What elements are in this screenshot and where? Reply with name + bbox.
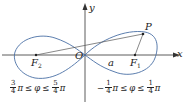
point-f1: [134, 54, 136, 56]
focus-f2-label: F2: [31, 58, 42, 69]
point-f2: [35, 54, 37, 56]
segment-a-label: a: [108, 58, 114, 68]
x-axis-label: x: [177, 49, 183, 59]
y-axis-label: y: [89, 3, 95, 13]
left-lobe-range: 34 π ≤ φ ≤ 54 π: [9, 80, 65, 95]
point-p-label: P: [145, 22, 152, 32]
origin-label: O: [75, 51, 83, 61]
segment-f1-p: [135, 34, 143, 55]
y-axis-arrow-icon: [83, 3, 88, 10]
right-lobe-range: − 14 π ≤ φ ≤ 14 π: [97, 80, 160, 95]
point-p: [142, 33, 145, 36]
focus-f1-label: F1: [130, 58, 141, 69]
